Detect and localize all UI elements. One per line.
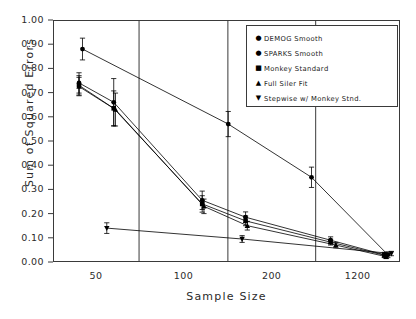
y-axis-title: Sum of Squared Errors: [23, 28, 36, 198]
legend-item-0: ●DEMOG Smooth: [253, 31, 393, 46]
legend-label: Full Siler Fit: [264, 80, 308, 88]
x-tick-label: 1200: [328, 270, 388, 281]
x-axis-title: Sample Size: [53, 290, 400, 303]
legend-label: Monkey Standard: [264, 65, 329, 73]
legend-label: DEMOG Smooth: [264, 35, 323, 43]
legend-label: SPARKS Smooth: [264, 50, 323, 58]
data-point-marker: [80, 47, 85, 52]
legend-marker-icon: ■: [253, 65, 264, 72]
legend-label: Stepwise w/ Monkey Stnd.: [264, 95, 361, 103]
series-line: [107, 228, 392, 253]
series-line: [79, 87, 386, 257]
legend-item-4: ▼Stepwise w/ Monkey Stnd.: [253, 91, 393, 106]
data-point-marker: [226, 122, 231, 127]
y-tick-label: 0.10: [0, 232, 44, 243]
series-line: [79, 83, 384, 255]
data-point-marker: [309, 175, 314, 180]
y-axis-ticks: [48, 20, 53, 262]
x-tick-label: 200: [242, 270, 302, 281]
legend-marker-icon: ●: [253, 50, 264, 57]
legend-item-3: ▲Full Siler Fit: [253, 76, 393, 91]
legend-item-2: ■Monkey Standard: [253, 61, 393, 76]
y-tick-label: 0.00: [0, 256, 44, 267]
legend: ●DEMOG Smooth●SPARKS Smooth■Monkey Stand…: [246, 25, 398, 107]
y-tick-label: 1.00: [0, 14, 44, 25]
chart-root: 1.000.900.800.700.600.500.400.300.200.10…: [0, 0, 416, 319]
legend-marker-icon: ▼: [253, 95, 264, 102]
x-tick-label: 50: [66, 270, 126, 281]
y-tick-label: 0.20: [0, 208, 44, 219]
x-tick-label: 100: [153, 270, 213, 281]
legend-marker-icon: ▲: [253, 80, 264, 87]
legend-marker-icon: ●: [253, 35, 264, 42]
legend-item-1: ●SPARKS Smooth: [253, 46, 393, 61]
